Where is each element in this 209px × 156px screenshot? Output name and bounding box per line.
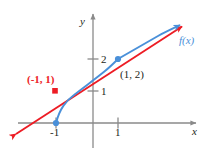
x-tick-label-1: 1 bbox=[115, 127, 121, 138]
function-label-fx: f(x) bbox=[179, 35, 194, 46]
x-axis-label: x bbox=[192, 126, 197, 137]
point-annotation-neg1-1: (-1, 1) bbox=[27, 74, 55, 85]
graph-figure: y x -1 1 1 2 (1, 2) (-1, 1) f(x) bbox=[0, 0, 209, 156]
point-annotation-1-2: (1, 2) bbox=[120, 69, 144, 80]
x-tick-label--1: -1 bbox=[50, 127, 59, 138]
y-tick-label-2: 2 bbox=[101, 54, 107, 65]
point-marker-neg1-1 bbox=[52, 88, 58, 94]
point-marker-1-2 bbox=[115, 56, 121, 62]
x-axis bbox=[18, 118, 196, 129]
y-axis-label: y bbox=[80, 16, 85, 27]
y-tick-label-1: 1 bbox=[101, 86, 107, 97]
